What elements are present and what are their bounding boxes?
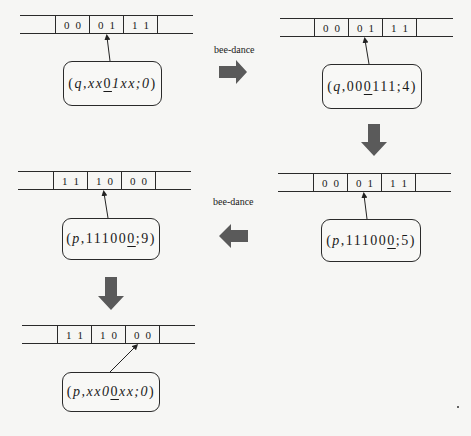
stray-dot <box>457 406 459 408</box>
tape-bottom-left: 11 10 00 <box>22 325 195 344</box>
tape-cell: 11 <box>54 171 88 190</box>
tape-middle-right: 00 01 11 <box>278 173 451 192</box>
tape-top-right: 00 01 11 <box>280 18 453 37</box>
transition-label-right: bee-dance <box>214 44 255 55</box>
tape-cell: 11 <box>383 18 417 37</box>
state-box-middle-left: (p,111000;9) <box>62 218 160 260</box>
block-arrow-left-icon <box>219 224 248 248</box>
tape-cell: 00 <box>126 325 160 344</box>
tape-cell: 00 <box>56 15 90 34</box>
state-box-top-left: (q,xx01xx;0) <box>63 61 162 106</box>
tape-cell: 00 <box>122 171 156 190</box>
tape-cell: 10 <box>88 171 122 190</box>
tape-middle-left: 11 10 00 <box>18 171 191 190</box>
tape-cell: 01 <box>90 15 124 34</box>
tape-cell: 11 <box>124 15 158 34</box>
tape-cell: 10 <box>92 325 126 344</box>
block-arrow-down-icon <box>361 124 387 156</box>
state-box-bottom-left: (p,xx00xx;0) <box>62 372 160 412</box>
tape-top-left: 00 01 11 <box>20 15 193 34</box>
state-box-middle-right: (p,111000;5) <box>321 219 421 262</box>
tape-cell: 00 <box>315 18 349 37</box>
tape-cell: 00 <box>314 173 348 192</box>
block-arrow-right-icon <box>219 60 247 84</box>
tape-cell: 01 <box>349 18 383 37</box>
tape-cell: 11 <box>58 325 92 344</box>
transition-label-left: bee-dance <box>213 196 254 207</box>
state-box-top-right: (q,000111;4) <box>322 64 422 109</box>
block-arrow-down-icon <box>98 277 124 310</box>
tape-cell: 11 <box>382 173 416 192</box>
tape-cell: 01 <box>348 173 382 192</box>
